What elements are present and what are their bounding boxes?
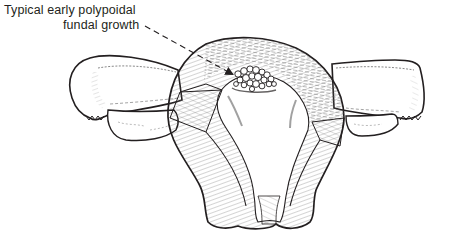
right-adnexa	[332, 60, 424, 136]
left-adnexa	[70, 56, 182, 141]
medical-illustration: Typical early polypoidal fundal growth	[0, 0, 449, 234]
uterus-drawing	[0, 0, 449, 234]
